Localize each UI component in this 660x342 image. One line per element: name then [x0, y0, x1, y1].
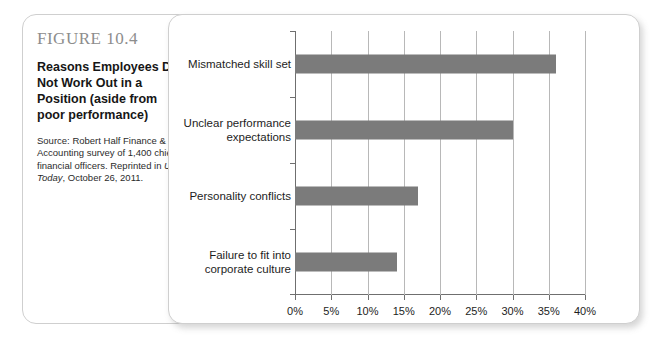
bar [295, 253, 397, 272]
x-axis-tick [440, 295, 441, 300]
category-label: Personality conflicts [173, 189, 291, 203]
x-axis-tick [513, 295, 514, 300]
bar [295, 121, 513, 140]
category-label: Mismatched skill set [173, 57, 291, 71]
figure-number: FIGURE 10.4 [37, 29, 185, 49]
y-axis-tick [290, 97, 295, 98]
bar [295, 187, 418, 206]
x-axis-tick-label: 0% [287, 305, 303, 317]
figure-source-prefix: Source: Robert Half Finance & Accounting… [37, 135, 174, 171]
x-axis-tick [549, 295, 550, 300]
x-axis-tick-label: 25% [465, 305, 487, 317]
figure-source: Source: Robert Half Finance & Accounting… [37, 135, 185, 185]
category-axis-labels: Mismatched skill setUnclear performance … [173, 31, 291, 295]
x-axis-tick [404, 295, 405, 300]
x-axis-tick [331, 295, 332, 300]
x-axis-tick [476, 295, 477, 300]
bar [295, 55, 556, 74]
x-axis-tick-label: 15% [393, 305, 415, 317]
x-axis-tick [368, 295, 369, 300]
category-label: Unclear performance expectations [173, 116, 291, 144]
y-axis-tick [290, 229, 295, 230]
x-axis-tick-label: 5% [323, 305, 339, 317]
x-axis-tick-label: 40% [574, 305, 596, 317]
gridline [585, 31, 586, 295]
figure-title: Reasons Employees Do Not Work Out in a P… [37, 59, 185, 123]
x-axis-tick [295, 295, 296, 300]
bar-chart: Mismatched skill setUnclear performance … [169, 15, 641, 325]
x-axis-tick-label: 35% [538, 305, 560, 317]
figure-source-suffix: , October 26, 2011. [63, 172, 144, 183]
plot-area: 0%5%10%15%20%25%30%35%40% [295, 31, 585, 295]
x-axis-tick [585, 295, 586, 300]
y-axis-tick [290, 163, 295, 164]
chart-panel: Mismatched skill setUnclear performance … [168, 14, 640, 324]
x-axis-tick-label: 30% [501, 305, 523, 317]
category-label: Failure to fit into corporate culture [173, 248, 291, 276]
y-axis-tick [290, 294, 295, 295]
x-axis-tick-label: 10% [356, 305, 378, 317]
y-axis-tick [290, 31, 295, 32]
figure-container: FIGURE 10.4 Reasons Employees Do Not Wor… [0, 0, 660, 342]
x-axis-tick-label: 20% [429, 305, 451, 317]
